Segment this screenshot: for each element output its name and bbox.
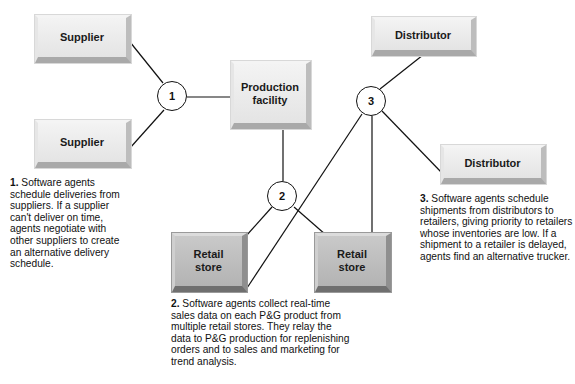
retail-store-box-left: Retail store [172, 233, 247, 292]
distributor-right-label: Distributor [464, 157, 520, 170]
distributor-box-top: Distributor [372, 17, 476, 56]
hub-circle-2: 2 [267, 181, 297, 211]
hub-3-label: 3 [368, 95, 374, 107]
distributor-top-label: Distributor [395, 29, 451, 42]
retail-store-left-label: Retail store [189, 248, 229, 274]
supplier-top-label: Supplier [60, 31, 104, 44]
retail-store-right-label: Retail store [332, 248, 372, 274]
note-1: 1. Software agents schedule deliveries f… [10, 177, 130, 270]
note-3-number: 3. [420, 193, 429, 204]
note-2-number: 2. [171, 298, 180, 309]
note-1-number: 1. [10, 177, 19, 188]
supplier-bottom-label: Supplier [60, 136, 104, 149]
retail-store-box-right: Retail store [315, 233, 391, 292]
hub-2-label: 2 [279, 190, 285, 202]
note-1-text: Software agents schedule deliveries from… [10, 177, 120, 269]
note-2: 2. Software agents collect real-time sal… [171, 298, 353, 368]
supplier-box-top: Supplier [35, 15, 131, 63]
hub-circle-1: 1 [157, 81, 187, 111]
hub-circle-3: 3 [356, 86, 386, 116]
note-3-text: Software agents schedule shipments from … [420, 193, 572, 262]
production-facility-box: Production facility [231, 61, 311, 129]
supplier-box-bottom: Supplier [35, 120, 131, 168]
note-3: 3. Software agents schedule shipments fr… [420, 193, 575, 263]
production-facility-label: Production facility [238, 81, 302, 107]
note-2-text: Software agents collect real-time sales … [171, 298, 349, 367]
distributor-box-right: Distributor [441, 145, 546, 184]
hub-1-label: 1 [169, 90, 175, 102]
